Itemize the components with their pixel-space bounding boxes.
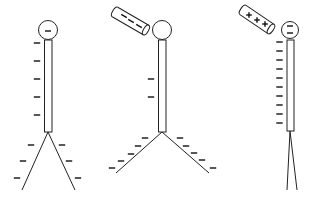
metal-rod: [45, 40, 53, 132]
metal-rod: [159, 40, 167, 132]
rod-front-end: [141, 24, 151, 36]
charged-rod-negative: [110, 6, 151, 36]
metal-ball: [282, 22, 299, 39]
electroscope-2: [109, 6, 216, 173]
minus-charge-icon: [136, 24, 142, 27]
electroscope-diagram: [0, 0, 314, 203]
diagram-canvas: [0, 0, 314, 203]
right-leaf: [162, 132, 209, 173]
rod-back-end: [238, 4, 246, 15]
metal-ball: [153, 21, 172, 40]
rod-back-end: [110, 6, 118, 17]
rod-front-end: [266, 23, 276, 35]
charged-rod-positive: [238, 4, 276, 35]
electroscope-3: [238, 4, 299, 190]
metal-ball: [39, 21, 58, 40]
left-leaf: [287, 131, 290, 190]
minus-charge-icon: [128, 19, 134, 22]
minus-charge-icon: [121, 14, 127, 17]
left-leaf: [116, 132, 162, 173]
electroscope-1: [14, 21, 81, 191]
metal-rod: [287, 40, 294, 131]
right-leaf: [290, 131, 297, 190]
